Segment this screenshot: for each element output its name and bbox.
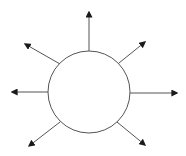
arrow-lower-left-icon (29, 122, 60, 146)
arrow-upper-right-icon (119, 42, 145, 63)
radial-arrow-diagram (0, 0, 186, 156)
center-circle (48, 51, 130, 133)
arrow-upper-left-icon (25, 44, 60, 64)
arrow-lower-right-icon (117, 122, 145, 145)
